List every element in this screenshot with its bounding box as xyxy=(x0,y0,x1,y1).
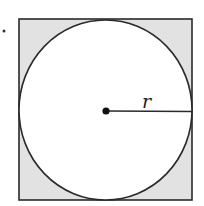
stray-dot xyxy=(3,30,6,33)
inscribed-circle-diagram: r xyxy=(0,0,204,206)
center-point xyxy=(102,107,109,114)
